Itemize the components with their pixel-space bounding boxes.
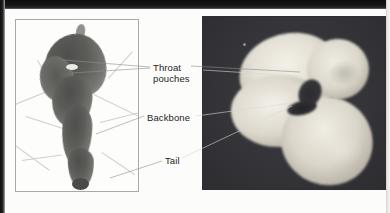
left-photo-canvas bbox=[16, 20, 138, 191]
scan-edge-top bbox=[0, 0, 390, 9]
label-throat-pouches: Throat pouches bbox=[153, 62, 190, 84]
label-backbone: Backbone bbox=[147, 112, 190, 123]
embryo-surface-texture bbox=[329, 61, 359, 85]
embryo-surface-texture bbox=[321, 133, 365, 167]
figure-root: Throat pouches Backbone Tail bbox=[0, 0, 390, 213]
right-photo-canvas bbox=[203, 17, 385, 189]
embryo-surface-texture bbox=[257, 87, 297, 117]
embryo-highlight-spot bbox=[66, 64, 78, 70]
scan-edge-right bbox=[386, 0, 390, 213]
background-filament bbox=[101, 152, 135, 175]
label-tail: Tail bbox=[165, 155, 180, 166]
background-filament bbox=[108, 51, 133, 78]
right-embryo-photo-panel bbox=[203, 17, 385, 189]
embryo-tail-tip bbox=[72, 178, 89, 190]
left-embryo-photo-panel bbox=[15, 19, 139, 192]
scan-edge-left bbox=[0, 0, 5, 213]
photo-speck bbox=[243, 43, 246, 46]
